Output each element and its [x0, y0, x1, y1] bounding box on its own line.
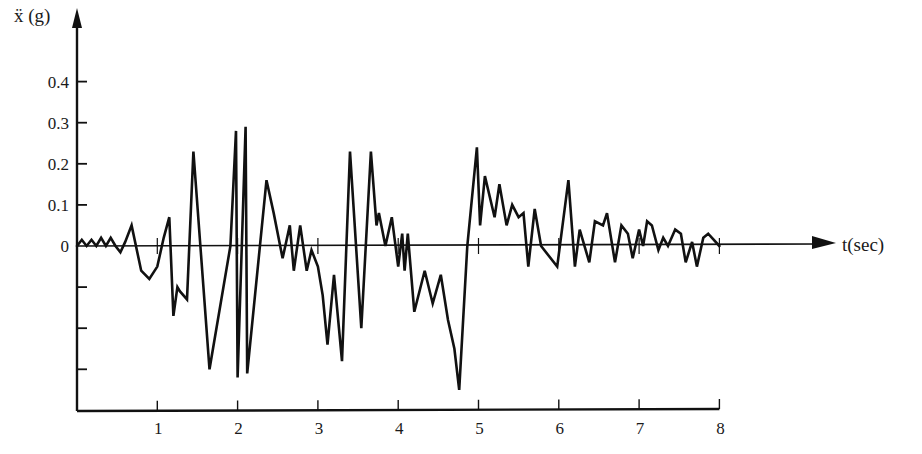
x-tick-label: 5	[475, 419, 484, 438]
x-tick-labels: 12345678	[154, 419, 725, 438]
x-axis-label: t(sec)	[842, 234, 884, 256]
acceleration-trace	[77, 127, 719, 390]
y-tick-labels: 0.40.30.20.10	[48, 73, 70, 256]
x-tick-label: 1	[154, 419, 163, 438]
x-tick-label: 7	[636, 419, 645, 438]
y-tick-label: 0.3	[48, 114, 69, 133]
y-axis-arrow-icon	[72, 8, 82, 28]
x-tick-label: 3	[315, 419, 324, 438]
y-tick-label: 0	[61, 237, 70, 256]
time-axis-arrow-icon	[812, 236, 836, 249]
x-tick-label: 2	[234, 419, 243, 438]
acceleration-chart: 0.40.30.20.10 12345678 ẍ (g) t(sec)	[0, 0, 922, 454]
y-tick-label: 0.1	[48, 196, 69, 215]
y-axis-label: ẍ (g)	[14, 5, 50, 27]
x-tick-label: 4	[395, 419, 404, 438]
x-tick-label: 8	[716, 419, 725, 438]
y-tick-label: 0.4	[48, 73, 70, 92]
x-tick-label: 6	[556, 419, 565, 438]
y-tick-label: 0.2	[48, 155, 69, 174]
